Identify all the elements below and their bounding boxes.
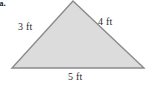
triangle-figure: a. 3 ft 4 ft 5 ft — [0, 0, 147, 88]
side-label-right: 4 ft — [98, 16, 112, 27]
item-marker-label: a. — [0, 0, 6, 8]
side-label-base: 5 ft — [68, 71, 82, 82]
triangle-shape — [12, 1, 144, 68]
side-label-left: 3 ft — [18, 21, 32, 32]
